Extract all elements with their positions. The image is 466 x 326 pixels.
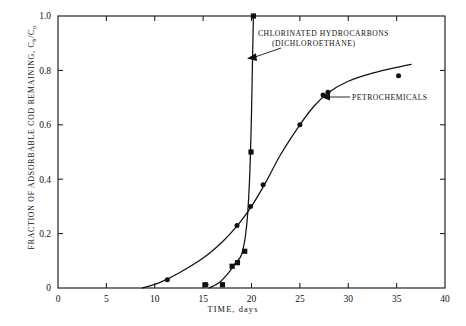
y-axis-title: FRACTION OF ADSORBABLE COD REMAINING, Cb… xyxy=(27,22,38,252)
svg-text:20: 20 xyxy=(247,294,257,304)
y-axis-title-sub-b: b xyxy=(31,38,37,42)
series-markers-petrochemicals xyxy=(165,73,401,287)
annotation-petrochemicals: PETROCHEMICALS xyxy=(352,93,428,103)
svg-text:0.4: 0.4 xyxy=(39,175,51,185)
svg-text:25: 25 xyxy=(295,294,305,304)
y-axis-title-sub-o: o xyxy=(31,25,37,29)
chart-figure: 0510152025303540 00.20.40.60.81.0 CHLORI… xyxy=(0,0,466,326)
scatter-plot-canvas: 0510152025303540 00.20.40.60.81.0 xyxy=(0,0,466,326)
svg-text:10: 10 xyxy=(150,294,160,304)
svg-text:0: 0 xyxy=(46,283,51,293)
svg-text:0: 0 xyxy=(56,294,61,304)
series-curve-chlorinated-hydrocarbons xyxy=(209,16,254,288)
svg-text:0.2: 0.2 xyxy=(39,229,51,239)
x-axis-title: TIME, days xyxy=(0,305,466,314)
svg-text:1.0: 1.0 xyxy=(39,11,51,21)
annotation-petrochemicals-label: PETROCHEMICALS xyxy=(352,93,428,102)
svg-text:0.8: 0.8 xyxy=(39,66,51,76)
annotation-chlorinated-line2: (DICHLOROETHANE) xyxy=(258,39,389,49)
svg-text:0.6: 0.6 xyxy=(39,120,51,130)
annotation-leaders xyxy=(247,48,350,101)
y-axis-tick-labels: 00.20.40.60.81.0 xyxy=(39,11,51,293)
annotation-chlorinated-hydrocarbons: CHLORINATED HYDROCARBONS (DICHLOROETHANE… xyxy=(258,29,389,50)
series-markers-chlorinated-hydrocarbons xyxy=(202,13,256,287)
svg-text:40: 40 xyxy=(440,294,450,304)
x-axis-tick-labels: 0510152025303540 xyxy=(56,294,450,304)
svg-text:35: 35 xyxy=(392,294,402,304)
svg-text:5: 5 xyxy=(104,294,109,304)
y-axis-title-main: FRACTION OF ADSORBABLE COD REMAINING, C xyxy=(27,42,36,250)
svg-text:30: 30 xyxy=(344,294,354,304)
annotation-chlorinated-line1: CHLORINATED HYDROCARBONS xyxy=(258,29,389,39)
svg-text:15: 15 xyxy=(198,294,208,304)
x-axis-title-label: TIME, days xyxy=(207,305,258,314)
y-axis-title-mid: /C xyxy=(27,29,36,38)
